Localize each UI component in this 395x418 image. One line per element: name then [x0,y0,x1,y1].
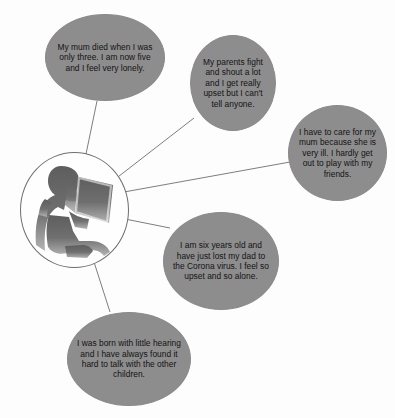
quote-text: I am six years old and have just lost my… [173,240,269,282]
center-child-node[interactable] [20,152,129,268]
quote-node-parents-fighting[interactable]: My parents fight and shout a lot and I g… [190,35,276,131]
quote-node-bereaved-mum[interactable]: My mum died when I was only three. I am … [45,14,165,101]
child-reading-silhouette-icon [21,153,129,268]
spider-diagram: My mum died when I was only three. I am … [0,0,395,418]
quote-node-hearing-impairment[interactable]: I was born with little hearing and I hav… [67,312,191,406]
quote-text: I was born with little hearing and I hav… [77,338,181,380]
connector-to-node-1 [86,101,97,154]
quote-node-bereaved-dad-corona[interactable]: I am six years old and have just lost my… [163,212,279,310]
connector-to-node-3 [124,162,290,192]
connector-to-node-5 [94,262,110,312]
quote-text: My mum died when I was only three. I am … [55,42,155,73]
quote-text: I have to care for my mum because she is… [298,127,377,179]
quote-node-young-carer[interactable]: I have to care for my mum because she is… [288,105,387,201]
quote-text: My parents fight and shout a lot and I g… [200,57,266,109]
